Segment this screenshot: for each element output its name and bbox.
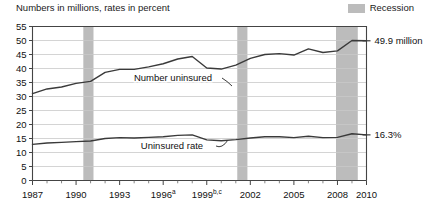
y-tick-label: 55 <box>16 21 27 32</box>
x-tick-label: 1993 <box>109 189 130 200</box>
y-axis-tick-labels: 0510152025303540455055 <box>16 21 27 186</box>
recession-band <box>83 27 93 181</box>
series-lines <box>33 41 367 145</box>
plot-frame <box>33 27 367 181</box>
x-tick-label: 2008 <box>327 189 348 200</box>
y-tick-label: 30 <box>16 91 27 102</box>
series-end-labels: 49.9 million16.3% <box>363 35 423 140</box>
x-axis-tick-labels: 1987199019931996a1999b,c2002200520082010 <box>22 188 377 199</box>
number-uninsured-value: 49.9 million <box>375 35 423 46</box>
x-tick-label: 2005 <box>283 189 304 200</box>
x-tick-label: 1990 <box>65 189 86 200</box>
series-label: Number uninsured <box>134 72 212 83</box>
chart-svg: 0510152025303540455055 1987199019931996a… <box>0 0 426 212</box>
chart-plot-area: 0510152025303540455055 1987199019931996a… <box>0 0 426 212</box>
x-tick-label: 1996a <box>151 188 176 199</box>
recession-band <box>237 27 247 181</box>
x-tick-label: 2002 <box>240 189 261 200</box>
y-tick-label: 0 <box>21 175 26 186</box>
y-tick-label: 35 <box>16 77 27 88</box>
recession-bands <box>83 27 357 181</box>
series-label: Uninsured rate <box>141 140 203 151</box>
y-tick-label: 15 <box>16 133 27 144</box>
uninsured-rate-value: 16.3% <box>375 129 402 140</box>
series-line <box>33 41 367 94</box>
y-tick-label: 5 <box>21 161 26 172</box>
chart-figure: Numbers in millions, rates in percent Re… <box>0 0 426 212</box>
y-tick-label: 25 <box>16 105 27 116</box>
y-tick-label: 10 <box>16 147 27 158</box>
y-tick-label: 45 <box>16 49 27 60</box>
axis-frame <box>33 27 367 181</box>
label-leader-line <box>222 78 232 86</box>
series-callouts: Number uninsuredNumber uninsuredUninsure… <box>134 72 232 151</box>
x-tick-label: 1987 <box>22 189 43 200</box>
x-tick-label: 1999b,c <box>192 188 223 199</box>
x-tick-label: 2010 <box>356 189 377 200</box>
y-tick-label: 20 <box>16 119 27 130</box>
y-tick-label: 40 <box>16 63 27 74</box>
y-tick-label: 50 <box>16 35 27 46</box>
